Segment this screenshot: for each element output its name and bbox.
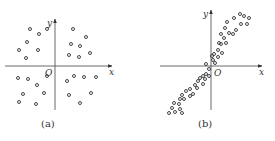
data-point (189, 95, 192, 98)
data-point (25, 57, 28, 60)
data-point (233, 17, 236, 20)
data-point (243, 15, 246, 18)
data-point (208, 68, 211, 71)
data-point (212, 59, 215, 62)
data-point (239, 13, 242, 16)
data-point (22, 93, 25, 96)
data-point (217, 49, 220, 52)
data-point (73, 75, 76, 78)
data-point (181, 94, 184, 97)
origin-label: O (45, 68, 53, 78)
data-point (179, 98, 182, 101)
data-point (29, 28, 32, 31)
data-point (83, 76, 86, 79)
origin-label: O (214, 68, 222, 78)
data-point (208, 75, 211, 78)
caption-a: (a) (41, 118, 55, 129)
y-axis-label: y (202, 9, 209, 19)
data-point (68, 54, 71, 57)
data-point (221, 52, 224, 55)
data-point (194, 84, 197, 87)
data-point (70, 43, 73, 46)
x-axis-label: x (109, 67, 114, 77)
data-point (183, 98, 186, 101)
data-point (178, 103, 181, 106)
data-point (240, 23, 243, 26)
data-point (220, 43, 223, 46)
data-point (79, 102, 82, 105)
scatter-plot-a: xyO (5, 18, 114, 110)
data-point (197, 80, 200, 83)
data-point (66, 80, 69, 83)
data-point (85, 36, 88, 39)
y-axis-label: y (46, 18, 53, 28)
data-point (224, 27, 227, 30)
data-point (228, 32, 231, 35)
data-point (89, 52, 92, 55)
data-point (26, 41, 29, 44)
data-point (38, 33, 41, 36)
data-point (189, 88, 192, 91)
data-point (27, 78, 30, 81)
data-point (202, 83, 205, 86)
data-point (223, 37, 226, 40)
data-point (18, 49, 21, 52)
data-point (72, 28, 75, 31)
data-point (235, 29, 238, 32)
data-point (226, 21, 229, 24)
data-point (35, 103, 38, 106)
data-point (204, 78, 207, 81)
data-point (68, 94, 71, 97)
data-point (78, 56, 81, 59)
data-point (168, 112, 171, 115)
data-point (196, 87, 199, 90)
data-point (246, 23, 249, 26)
data-point (220, 33, 223, 36)
data-point (192, 93, 195, 96)
data-point (181, 112, 184, 115)
data-point (205, 63, 208, 66)
data-point (199, 77, 202, 80)
data-point (217, 56, 220, 59)
data-point (211, 55, 214, 58)
data-point (202, 75, 205, 78)
caption-b: (b) (198, 118, 212, 129)
data-point (36, 84, 39, 87)
data-point (90, 92, 93, 95)
scatter-plot-b: xyO (160, 9, 264, 115)
data-point (205, 73, 208, 76)
data-point (95, 76, 98, 79)
data-point (214, 62, 217, 65)
data-point (179, 108, 182, 111)
data-point (225, 42, 228, 45)
data-point (248, 17, 251, 20)
data-point (43, 92, 46, 95)
data-point (174, 111, 177, 114)
data-point (185, 90, 188, 93)
data-point (18, 101, 21, 104)
data-point (17, 77, 20, 80)
data-point (79, 45, 82, 48)
data-point (173, 102, 176, 105)
data-point (171, 107, 174, 110)
data-point (232, 33, 235, 36)
data-point (37, 49, 40, 52)
x-axis-label: x (259, 67, 264, 77)
